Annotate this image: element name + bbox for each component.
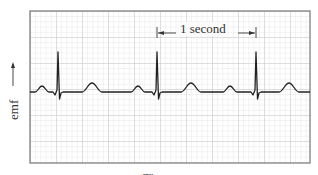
ecg-figure: 1 second emf Time	[0, 0, 318, 175]
x-axis-label: Time	[143, 171, 170, 175]
y-axis-label-container: emf	[2, 58, 24, 120]
ecg-chart	[0, 0, 318, 175]
y-axis-label: emf	[6, 100, 22, 120]
grid-paper	[30, 11, 310, 163]
interval-label: 1 second	[178, 22, 228, 36]
